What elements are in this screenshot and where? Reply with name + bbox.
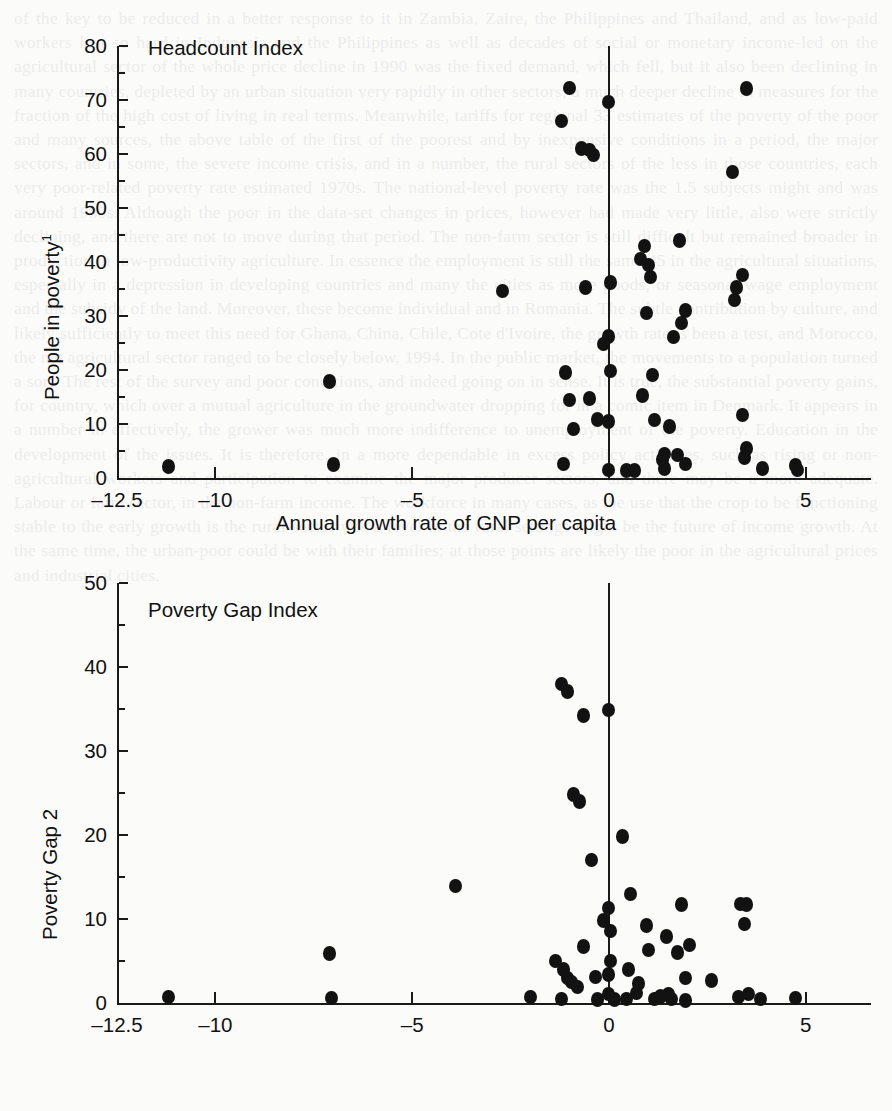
scatter-point xyxy=(162,459,175,474)
scatter-point xyxy=(675,897,688,912)
y-axis-tick-major xyxy=(119,207,128,209)
scatter-point xyxy=(642,943,655,958)
scatter-point xyxy=(449,879,462,894)
y-axis-tick-major xyxy=(119,315,128,317)
x-axis-tick-label: –10 xyxy=(170,490,260,511)
scatter-point xyxy=(671,945,684,960)
x-axis-tick xyxy=(411,467,413,478)
scatter-point xyxy=(754,992,767,1007)
scatter-point xyxy=(756,461,769,476)
scatter-point xyxy=(640,918,653,933)
y-axis-tick-minor xyxy=(119,396,125,398)
scatter-point xyxy=(323,374,336,389)
plot-area-povertygap: 01020304050–12.5–10–505 xyxy=(0,545,892,1111)
scatter-point xyxy=(577,708,590,723)
scatter-point xyxy=(634,252,647,267)
scatter-point xyxy=(622,962,635,977)
scatter-point xyxy=(660,929,673,944)
scatter-point xyxy=(738,917,751,932)
axis-title-y-headcount-text: People in poverty xyxy=(40,242,63,400)
scatter-point xyxy=(673,233,686,248)
scatter-point xyxy=(728,293,741,308)
scatter-point xyxy=(327,457,340,472)
scatter-point xyxy=(585,853,598,868)
y-axis-tick-minor xyxy=(119,708,125,710)
scatter-point xyxy=(524,990,537,1005)
scatter-point xyxy=(561,684,574,699)
scatter-point xyxy=(571,980,584,995)
y-axis-tick-label: 50 xyxy=(47,198,107,219)
y-axis-tick-minor xyxy=(119,876,125,878)
x-axis-tick-label: –10 xyxy=(170,1015,260,1036)
scatter-point xyxy=(573,794,586,809)
x-axis-tick-label: –12.5 xyxy=(72,490,162,511)
scatter-point xyxy=(602,967,615,982)
scatter-point xyxy=(648,413,661,428)
x-axis-line xyxy=(117,478,871,480)
y-axis-tick-minor xyxy=(119,960,125,962)
y-axis-tick-minor xyxy=(119,342,125,344)
scatter-point xyxy=(683,938,696,953)
chart-title-povertygap: Poverty Gap Index xyxy=(148,600,318,621)
x-axis-tick xyxy=(214,992,216,1003)
scatter-point xyxy=(563,81,576,96)
y-axis-tick-minor xyxy=(119,126,125,128)
scatter-point xyxy=(559,365,572,380)
scatter-point xyxy=(663,419,676,434)
scatter-point xyxy=(563,393,576,408)
scatter-point xyxy=(630,986,643,1001)
axis-title-y-povertygap-superscript: 2 xyxy=(38,809,61,820)
scatter-point xyxy=(736,408,749,423)
y-axis-tick-minor xyxy=(119,72,125,74)
y-axis-tick-label: 70 xyxy=(47,90,107,111)
x-axis-tick-label: –12.5 xyxy=(72,1015,162,1036)
scatter-point xyxy=(602,463,615,478)
chart-title-headcount: Headcount Index xyxy=(148,38,303,59)
y-axis-tick-label: 10 xyxy=(47,414,107,435)
x-axis-tick-label: –5 xyxy=(367,490,457,511)
scatter-point xyxy=(644,270,657,285)
scatter-point xyxy=(791,463,804,478)
scatter-point xyxy=(604,954,617,969)
scatter-point xyxy=(738,450,751,465)
y-axis-tick-minor xyxy=(119,180,125,182)
y-axis-tick-label: 50 xyxy=(47,573,107,594)
scatter-point xyxy=(602,414,615,429)
y-axis-tick-minor xyxy=(119,288,125,290)
zero-reference-line xyxy=(608,583,610,1003)
y-axis-tick-label: 0 xyxy=(47,993,107,1014)
scatter-point xyxy=(567,422,580,437)
y-axis-tick-major xyxy=(119,918,128,920)
y-axis-tick-major xyxy=(119,834,128,836)
y-axis-tick-major xyxy=(119,750,128,752)
scatter-point xyxy=(640,306,653,321)
y-axis-tick-label: 0 xyxy=(47,468,107,489)
scatter-point xyxy=(636,388,649,403)
scatter-point xyxy=(646,368,659,383)
x-axis-tick xyxy=(411,992,413,1003)
x-axis-tick-label: 5 xyxy=(761,1015,851,1036)
y-axis-tick-major xyxy=(119,369,128,371)
axis-title-x-headcount: Annual growth rate of GNP per capita xyxy=(196,513,696,534)
scatter-point xyxy=(557,457,570,472)
x-axis-tick xyxy=(214,467,216,478)
scatter-point xyxy=(679,457,692,472)
y-axis-tick-minor xyxy=(119,450,125,452)
scatter-point xyxy=(602,329,615,344)
x-axis-tick-label: 5 xyxy=(761,490,851,511)
scatter-point xyxy=(323,946,336,961)
scatter-point xyxy=(604,364,617,379)
scatter-point xyxy=(579,280,592,295)
y-axis-tick-label: 60 xyxy=(47,144,107,165)
scatter-point xyxy=(496,284,509,299)
x-axis-tick-label: 0 xyxy=(564,1015,654,1036)
y-axis-tick-major xyxy=(119,99,128,101)
scatter-point xyxy=(628,463,641,478)
y-axis-tick-minor xyxy=(119,624,125,626)
scatter-point xyxy=(325,991,338,1006)
y-axis-tick-minor xyxy=(119,792,125,794)
y-axis-tick-major xyxy=(119,423,128,425)
scatter-point xyxy=(667,330,680,345)
y-axis-tick-major xyxy=(119,45,128,47)
scatter-point xyxy=(583,391,596,406)
